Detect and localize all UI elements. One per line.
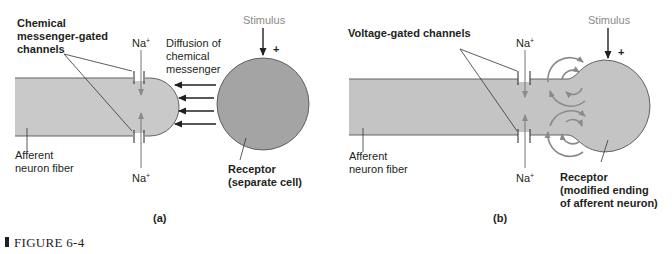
chemical-messenger-diffusion-arrows: [175, 85, 216, 124]
panel-b-label: (b): [493, 212, 507, 224]
plus-sign-a: +: [273, 43, 279, 55]
fiber-label-b: Afferent neuron fiber: [349, 150, 408, 175]
stimulus-label-b: Stimulus: [588, 14, 631, 26]
panel-a: Chemical messenger-gated channels Na+ Na…: [15, 14, 309, 224]
panel-b: Voltage-gated channels Na+ Na+ Stimulus …: [348, 14, 658, 224]
caption-bar-icon: [5, 237, 9, 247]
channels-label-b: Voltage-gated channels: [348, 27, 471, 39]
na-label-bottom-a: Na+: [132, 172, 150, 184]
diffusion-label: Diffusion of chemical messenger: [166, 37, 224, 75]
fiber-label-a: Afferent neuron fiber: [15, 149, 74, 174]
channels-label-a: Chemical messenger-gated channels: [17, 17, 111, 55]
na-label-top-a: Na+: [132, 37, 150, 49]
stimulus-label-a: Stimulus: [243, 14, 286, 26]
na-label-top-b: Na+: [516, 37, 534, 49]
plus-sign-b: +: [618, 46, 624, 58]
afferent-fiber-a: [15, 78, 179, 136]
na-label-bottom-b: Na+: [516, 172, 534, 184]
figure-caption-text: FIGURE 6-4: [14, 235, 85, 250]
panel-a-label: (a): [153, 212, 167, 224]
receptor-label-b: Receptor (modified ending of afferent ne…: [560, 171, 658, 209]
figure-caption: FIGURE 6-4: [5, 235, 85, 250]
receptor-label-a: Receptor (separate cell): [228, 163, 302, 188]
figure-6-4-diagram: Chemical messenger-gated channels Na+ Na…: [0, 0, 672, 254]
receptor-separate-cell: [217, 58, 309, 150]
